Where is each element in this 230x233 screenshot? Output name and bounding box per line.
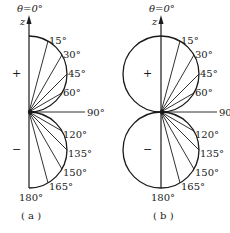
angle-label-15: 15° — [181, 35, 199, 46]
positive-sign: + — [143, 67, 152, 80]
angle-label-60: 60° — [63, 87, 81, 98]
theta-zero-label: θ=0° — [17, 3, 43, 14]
angle-label-150: 150° — [195, 167, 219, 178]
bottom-angle-label: 180° — [19, 192, 43, 203]
radial-line-165 — [161, 112, 180, 183]
angle-label-165: 165° — [49, 181, 73, 192]
angle-label-120: 120° — [63, 129, 87, 140]
negative-sign: − — [12, 143, 21, 156]
radial-line-165 — [29, 112, 48, 183]
angle-label-45: 45° — [68, 68, 86, 79]
angle-label-135: 135° — [68, 148, 92, 159]
radial-line-15 — [161, 41, 180, 112]
arrow-up-icon — [27, 15, 32, 24]
z-axis-label: z — [151, 16, 158, 27]
origin-point — [28, 110, 32, 114]
panel-caption: ( a ) — [21, 210, 41, 221]
panel-caption: ( b ) — [153, 210, 174, 221]
angle-label-45: 45° — [200, 68, 218, 79]
origin-point — [160, 110, 164, 114]
panel-b: 15°30°45°60°90°120°135°150°165°θ=0°z180°… — [123, 3, 230, 221]
arrow-up-icon — [159, 15, 164, 24]
radial-line-15 — [29, 41, 48, 112]
positive-sign: + — [12, 67, 21, 80]
angle-label-135: 135° — [200, 148, 224, 159]
angle-label-120: 120° — [195, 129, 219, 140]
angle-label-15: 15° — [49, 35, 67, 46]
z-axis-label: z — [19, 16, 26, 27]
angle-label-30: 30° — [63, 49, 81, 60]
angle-label-60: 60° — [195, 87, 213, 98]
bottom-angle-label: 180° — [151, 192, 175, 203]
panel-a: 15°30°45°60°90°120°135°150°165°θ=0°z180°… — [12, 3, 105, 221]
angle-label-90: 90° — [87, 107, 105, 118]
theta-zero-label: θ=0° — [149, 3, 175, 14]
angle-label-150: 150° — [63, 167, 87, 178]
angle-label-30: 30° — [195, 49, 213, 60]
negative-sign: − — [143, 143, 152, 156]
polar-diagram: 15°30°45°60°90°120°135°150°165°θ=0°z180°… — [0, 0, 230, 233]
angle-label-165: 165° — [181, 181, 205, 192]
angle-label-90: 90° — [219, 107, 230, 118]
